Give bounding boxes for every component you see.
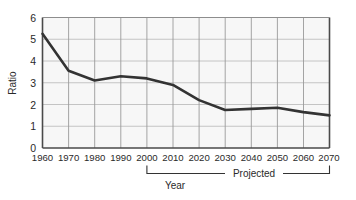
x-tick-label: 1970 xyxy=(58,152,79,163)
x-tick-label: 2000 xyxy=(136,152,157,163)
y-axis-title: Ratio xyxy=(7,71,18,95)
chart-figure: 6 5 4 3 2 1 0 Ratio 1960 1970 1980 1990 … xyxy=(0,0,356,200)
x-tick-label: 2030 xyxy=(215,152,236,163)
x-axis-title: Year xyxy=(165,180,186,191)
x-tick-label: 1980 xyxy=(84,152,105,163)
x-tick-label: 1990 xyxy=(110,152,131,163)
y-tick-label: 3 xyxy=(30,77,36,89)
x-tick-label: 2020 xyxy=(188,152,209,163)
y-tick-label: 4 xyxy=(30,55,36,67)
x-tick-label: 2050 xyxy=(267,152,288,163)
x-tick-label: 1960 xyxy=(32,152,53,163)
x-tick-label: 2010 xyxy=(162,152,183,163)
ratio-line-chart: 6 5 4 3 2 1 0 Ratio 1960 1970 1980 1990 … xyxy=(0,0,356,200)
projected-label: Projected xyxy=(233,168,275,179)
x-tick-label: 2060 xyxy=(293,152,314,163)
x-tick-label: 2040 xyxy=(241,152,262,163)
y-tick-label: 2 xyxy=(30,99,36,111)
x-tick-label: 2070 xyxy=(318,152,339,163)
y-tick-label: 5 xyxy=(30,33,36,45)
y-tick-label: 1 xyxy=(30,120,36,132)
y-tick-label: 6 xyxy=(30,12,36,24)
